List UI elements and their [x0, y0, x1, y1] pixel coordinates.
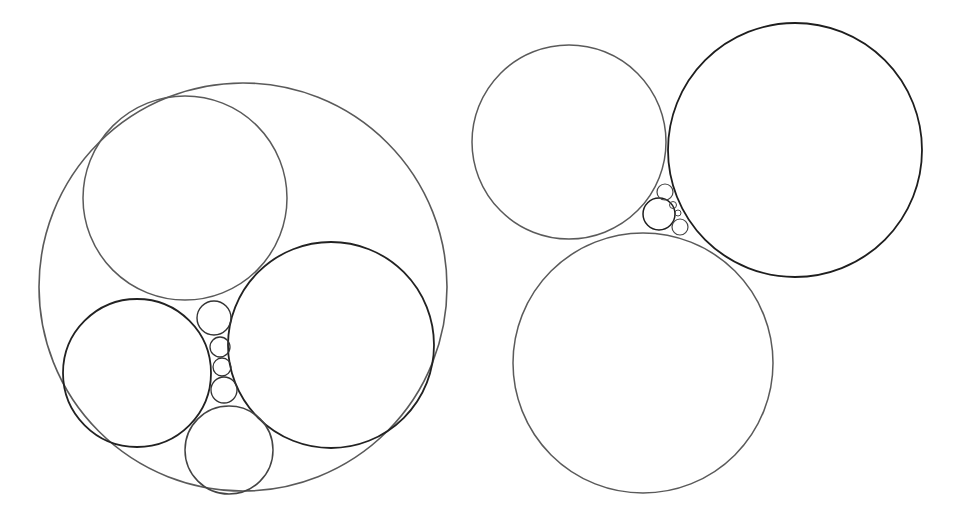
circle-top-left [472, 45, 666, 239]
circle-gap-top [657, 184, 673, 200]
circle-bottom [513, 233, 773, 493]
circle-bottom [185, 406, 273, 494]
diagram-svg [0, 0, 957, 514]
circle-chain-2 [210, 337, 230, 357]
circle-gap-tiny-2 [675, 210, 681, 216]
circle-gap-bottom [672, 219, 688, 235]
circle-top-right [668, 23, 922, 277]
circle-chain-4 [211, 377, 237, 403]
circle-outer [39, 83, 447, 491]
circle-left-mid [63, 299, 211, 447]
circle-top [83, 96, 287, 300]
circle-chain-3 [213, 358, 231, 376]
circle-packing-diagram [0, 0, 957, 514]
left-figure [39, 83, 447, 494]
circle-chain-1 [197, 301, 231, 335]
right-figure [472, 23, 922, 493]
